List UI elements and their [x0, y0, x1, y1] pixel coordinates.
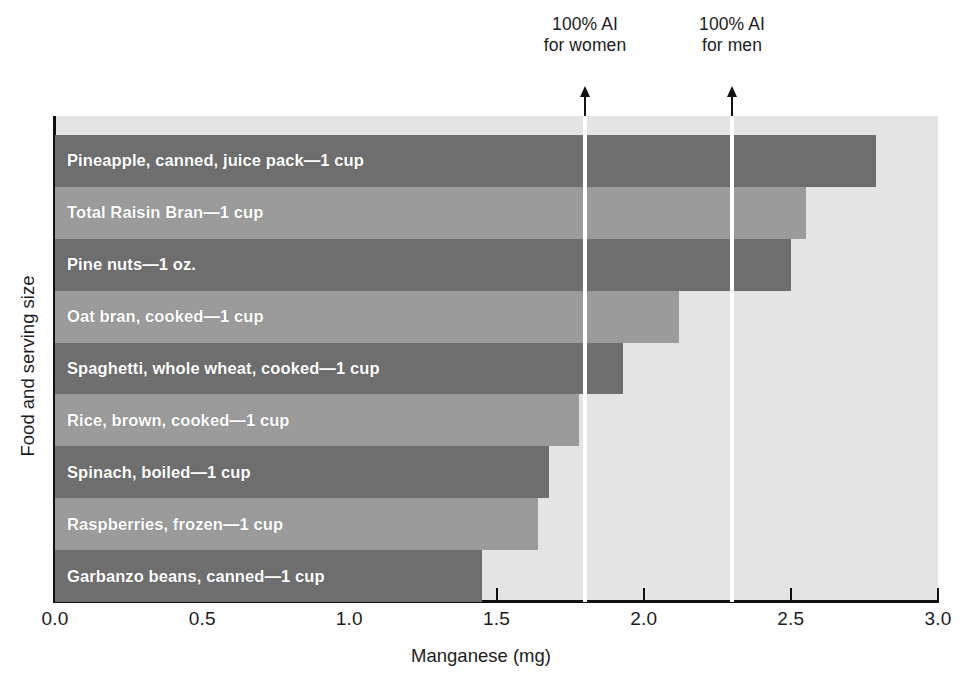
x-tick-label: 0.0	[20, 608, 90, 630]
bar-row: Garbanzo beans, canned—1 cup	[55, 550, 938, 602]
x-tick-label: 2.5	[756, 608, 826, 630]
bar-label: Garbanzo beans, canned—1 cup	[67, 550, 325, 602]
bar-label: Raspberries, frozen—1 cup	[67, 498, 283, 550]
manganese-bar-chart: 100% AI for women 100% AI for men Pineap…	[0, 0, 962, 696]
annotation-ai-women: 100% AI for women	[511, 14, 659, 55]
bar-series: Pineapple, canned, juice pack—1 cupTotal…	[55, 135, 938, 602]
bar-label: Spinach, boiled—1 cup	[67, 446, 251, 498]
x-tick-label: 2.0	[609, 608, 679, 630]
arrow-up-icon-men	[724, 86, 740, 118]
bar-label: Total Raisin Bran—1 cup	[67, 187, 263, 239]
bar-label: Oat bran, cooked—1 cup	[67, 291, 264, 343]
bar-row: Spaghetti, whole wheat, cooked—1 cup	[55, 343, 938, 395]
bar-row: Rice, brown, cooked—1 cup	[55, 394, 938, 446]
annotation-ai-men-line2: for men	[658, 35, 806, 56]
annotation-ai-men: 100% AI for men	[658, 14, 806, 55]
bar-row: Pine nuts—1 oz.	[55, 239, 938, 291]
x-tick-label: 1.5	[462, 608, 532, 630]
annotation-ai-women-line2: for women	[511, 35, 659, 56]
annotation-ai-women-line1: 100% AI	[511, 14, 659, 35]
bar-row: Raspberries, frozen—1 cup	[55, 498, 938, 550]
bar-row: Total Raisin Bran—1 cup	[55, 187, 938, 239]
arrow-up-icon-women	[577, 86, 593, 118]
bar-label: Rice, brown, cooked—1 cup	[67, 394, 290, 446]
x-axis-title: Manganese (mg)	[0, 645, 962, 667]
reference-line-men	[730, 116, 734, 602]
bar-row: Pineapple, canned, juice pack—1 cup	[55, 135, 938, 187]
bar-label: Pine nuts—1 oz.	[67, 239, 196, 291]
annotation-ai-men-line1: 100% AI	[658, 14, 806, 35]
x-tick-label: 0.5	[167, 608, 237, 630]
reference-line-women	[583, 116, 587, 602]
x-tick-label: 3.0	[903, 608, 962, 630]
bar-row: Oat bran, cooked—1 cup	[55, 291, 938, 343]
y-axis-title: Food and serving size	[17, 226, 39, 506]
bar-label: Spaghetti, whole wheat, cooked—1 cup	[67, 343, 380, 395]
x-tick-label: 1.0	[314, 608, 384, 630]
plot-area: Pineapple, canned, juice pack—1 cupTotal…	[55, 116, 938, 602]
bar-label: Pineapple, canned, juice pack—1 cup	[67, 135, 364, 187]
bar-row: Spinach, boiled—1 cup	[55, 446, 938, 498]
